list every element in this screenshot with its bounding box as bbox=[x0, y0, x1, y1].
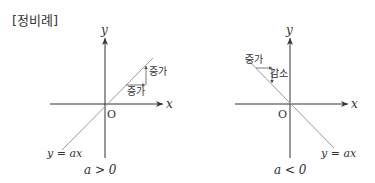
annot-vertical: 감소 bbox=[270, 68, 288, 79]
origin-label: O bbox=[107, 108, 116, 121]
x-axis-label: x bbox=[351, 97, 358, 111]
y-axis-label: y bbox=[285, 23, 293, 37]
x-axis-label: x bbox=[166, 97, 173, 111]
condition-label: a > 0 bbox=[84, 163, 117, 177]
graph-positive: y x O y = ax a > 0 증가 증가 bbox=[46, 23, 173, 177]
line-label: y = ax bbox=[46, 147, 83, 160]
line-label: y = ax bbox=[320, 147, 357, 160]
y-axis-label: y bbox=[100, 23, 108, 37]
annot-horizontal: 증가 bbox=[245, 54, 263, 65]
annot-horizontal: 증가 bbox=[127, 86, 145, 97]
proportion-diagram: y x O y = ax a > 0 증가 증가 y x O y = ax a … bbox=[0, 0, 375, 183]
origin-label: O bbox=[278, 108, 287, 121]
graph-negative: y x O y = ax a < 0 증가 감소 bbox=[235, 23, 358, 177]
annot-vertical: 증가 bbox=[149, 66, 167, 77]
condition-label: a < 0 bbox=[274, 163, 307, 177]
